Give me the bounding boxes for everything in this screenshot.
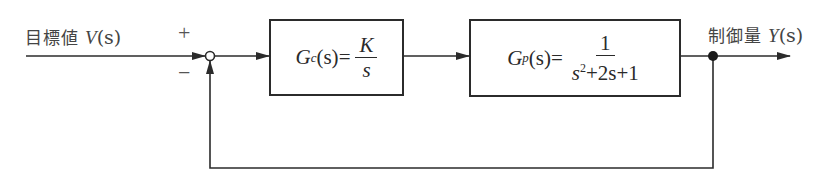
plant-fraction: 1 s2+2s+1 — [568, 32, 643, 84]
plant-block: Gp (s)= 1 s2+2s+1 — [469, 19, 681, 97]
minus-sign: − — [178, 60, 190, 86]
plant-transfer-function: Gp (s)= 1 s2+2s+1 — [507, 32, 643, 84]
controller-transfer-function: Gc (s)= K s — [296, 34, 378, 81]
controller-fraction: K s — [355, 34, 377, 81]
summing-junction-icon — [206, 52, 215, 61]
controller-block: Gc (s)= K s — [269, 19, 404, 96]
branch-point-icon — [708, 51, 718, 61]
input-label: 目標値 V(s) — [25, 24, 121, 49]
output-label: 制御量 Y(s) — [708, 22, 803, 47]
plus-sign: + — [178, 20, 190, 46]
